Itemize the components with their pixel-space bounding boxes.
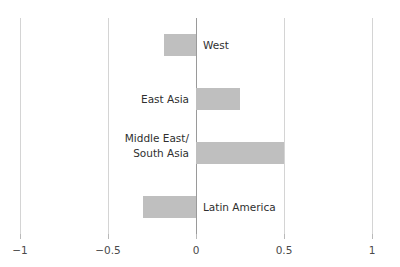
plot-area: −1−0.500.51WestEast AsiaMiddle East/ Sou… <box>20 18 372 234</box>
x-axis-tick <box>372 234 373 239</box>
bar-row: East Asia <box>20 72 372 126</box>
x-axis-tick-label: −0.5 <box>95 244 121 256</box>
x-axis-tick-label: 0 <box>193 244 200 256</box>
bar <box>196 142 284 164</box>
bar-category-label: East Asia <box>141 88 189 110</box>
bar-category-label: West <box>203 34 229 56</box>
x-axis-tick <box>284 234 285 239</box>
x-axis-tick-label: 1 <box>369 244 376 256</box>
x-axis-tick-label: 0.5 <box>276 244 293 256</box>
chart-title <box>0 0 400 1</box>
bar <box>196 88 240 110</box>
x-axis-tick <box>20 234 21 239</box>
bar-row: Middle East/ South Asia <box>20 126 372 180</box>
x-axis-tick <box>196 234 197 239</box>
bar-row: West <box>20 18 372 72</box>
x-axis-tick <box>108 234 109 239</box>
bar-category-label: Middle East/ South Asia <box>125 131 189 175</box>
bar <box>164 34 196 56</box>
bar-category-label: Latin America <box>203 196 276 218</box>
gridline <box>372 18 373 234</box>
x-axis-tick-label: −1 <box>12 244 27 256</box>
bar-row: Latin America <box>20 180 372 234</box>
bar <box>143 196 196 218</box>
